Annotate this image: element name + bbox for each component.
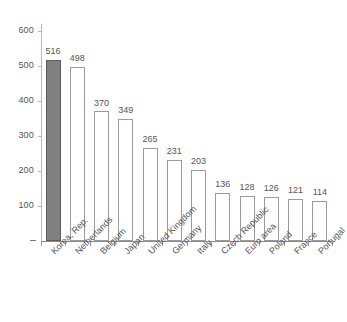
bar-value-label: 265 (134, 135, 166, 144)
y-axis-tick-label: 600 (2, 26, 34, 35)
bar[interactable] (118, 119, 133, 241)
bar-value-label: 498 (61, 54, 93, 63)
bar-value-label: 231 (158, 147, 190, 156)
bar-value-label: 114 (304, 188, 336, 197)
bar[interactable] (143, 148, 158, 241)
y-axis-tick-label: 400 (2, 96, 34, 105)
bar[interactable] (215, 193, 230, 241)
y-axis-zero-tick-dash (30, 240, 36, 241)
y-axis-tick-label: 500 (2, 61, 34, 70)
x-axis-tick (41, 242, 42, 246)
y-axis-tick-label: 200 (2, 166, 34, 175)
bar[interactable] (46, 60, 61, 241)
bar-value-label: 203 (183, 157, 215, 166)
y-axis-tick-label: 300 (2, 131, 34, 140)
bar-value-label: 349 (110, 106, 142, 115)
y-axis-tick-label: 100 (2, 201, 34, 210)
